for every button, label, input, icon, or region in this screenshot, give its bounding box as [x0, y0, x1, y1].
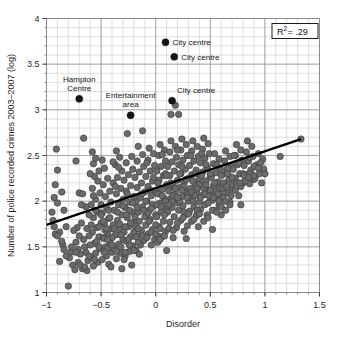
data-point — [185, 211, 191, 217]
data-point — [56, 258, 62, 264]
data-point — [205, 200, 211, 206]
r2-value: = .29 — [288, 27, 308, 37]
data-point — [205, 214, 211, 220]
data-point — [100, 218, 106, 224]
data-point — [139, 151, 145, 157]
annotation-label: City centre — [173, 38, 212, 47]
data-point — [177, 171, 183, 177]
data-point — [90, 192, 96, 198]
annotation-label: City centre — [177, 86, 216, 95]
data-point — [262, 171, 268, 177]
data-point — [87, 171, 93, 177]
x-tick-label: 1 — [262, 300, 267, 310]
y-tick-label: 1 — [34, 288, 39, 298]
data-point — [99, 157, 105, 163]
data-point — [227, 202, 233, 208]
data-points — [49, 102, 304, 289]
highlighted-data-point — [76, 95, 83, 102]
x-axis-title: Disorder — [166, 319, 200, 329]
data-point — [73, 249, 79, 255]
data-point — [120, 203, 126, 209]
data-point — [167, 149, 173, 155]
data-point — [88, 222, 94, 228]
data-point — [175, 111, 181, 117]
data-point — [195, 224, 201, 230]
data-point — [171, 213, 177, 219]
data-point — [249, 143, 255, 149]
data-point — [112, 183, 118, 189]
data-point — [116, 154, 122, 160]
data-point — [103, 225, 109, 231]
data-point — [111, 225, 117, 231]
data-point — [127, 220, 133, 226]
data-point — [144, 160, 150, 166]
data-point — [163, 172, 169, 178]
data-point — [168, 111, 174, 117]
data-point — [110, 159, 116, 165]
data-point — [148, 242, 154, 248]
data-point — [80, 135, 86, 141]
y-axis-ticks — [43, 19, 47, 293]
data-point — [163, 247, 169, 253]
data-point — [161, 212, 167, 218]
data-point — [86, 233, 92, 239]
data-point — [134, 184, 140, 190]
data-point — [144, 235, 150, 241]
data-point — [132, 213, 138, 219]
data-point — [186, 162, 192, 168]
data-point — [146, 145, 152, 151]
data-point — [153, 231, 159, 237]
data-point — [88, 202, 94, 208]
data-point — [244, 138, 250, 144]
data-point — [222, 207, 228, 213]
y-tick-label: 4 — [34, 14, 39, 24]
data-point — [233, 141, 239, 147]
data-point — [170, 235, 176, 241]
data-point — [54, 167, 60, 173]
annotation-label: Hampton — [63, 75, 95, 84]
data-point — [91, 256, 97, 262]
data-point — [107, 188, 113, 194]
data-point — [124, 130, 130, 136]
annotation-label: area — [123, 100, 140, 109]
data-point — [128, 153, 134, 159]
y-tick-label: 1.5 — [27, 242, 40, 252]
data-point — [65, 283, 71, 289]
data-point — [90, 263, 96, 269]
data-point — [196, 211, 202, 217]
data-point — [201, 135, 207, 141]
data-point — [223, 183, 229, 189]
data-point — [174, 194, 180, 200]
data-point — [52, 182, 58, 188]
x-tick-label: 0.5 — [204, 300, 217, 310]
data-point — [130, 166, 136, 172]
data-point — [125, 171, 131, 177]
data-point — [183, 235, 189, 241]
data-point — [68, 244, 74, 250]
data-point — [134, 204, 140, 210]
data-point — [76, 233, 82, 239]
data-point — [190, 178, 196, 184]
data-point — [115, 164, 121, 170]
data-point — [155, 180, 161, 186]
data-point — [179, 136, 185, 142]
data-point — [114, 209, 120, 215]
data-point — [154, 168, 160, 174]
data-point — [54, 233, 60, 239]
data-point — [114, 174, 120, 180]
highlighted-data-point — [162, 39, 169, 46]
data-point — [135, 225, 141, 231]
data-point — [258, 180, 264, 186]
data-point — [71, 227, 77, 233]
data-point — [187, 152, 193, 158]
data-point — [102, 193, 108, 199]
data-point — [174, 220, 180, 226]
data-point — [209, 226, 215, 232]
highlighted-data-point — [127, 112, 134, 119]
data-point — [90, 161, 96, 167]
data-point — [222, 148, 228, 154]
y-axis-title: Number of police recorded crimes 2003–20… — [6, 54, 16, 257]
data-point — [118, 244, 124, 250]
x-tick-label: −0.5 — [92, 300, 110, 310]
data-point — [147, 168, 153, 174]
